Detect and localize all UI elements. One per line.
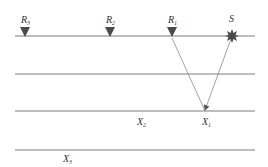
reflection-point-x3: X3 <box>62 153 72 165</box>
reflection-point-x1: X1 <box>201 116 211 128</box>
svg-text:R3: R3 <box>20 14 30 26</box>
svg-text:R1: R1 <box>167 14 177 26</box>
receiver-subscript: 3 <box>26 20 30 26</box>
reflection-point-x2: X2 <box>136 116 146 128</box>
receiver-label: R <box>20 14 27 25</box>
source-label: S <box>229 13 234 24</box>
receiver-r3: R3 <box>20 14 30 37</box>
receiver-r2: R2 <box>105 14 115 37</box>
ray-source-to-x1 <box>205 36 232 110</box>
receiver-label: R <box>105 14 112 25</box>
seismic-diagram: R3 R2 R1 S X1 X2 X3 <box>0 0 268 167</box>
receiver-r1: R1 <box>167 14 177 37</box>
svg-text:R2: R2 <box>105 14 115 26</box>
receiver-label: R <box>167 14 174 25</box>
source-starburst-icon <box>225 29 239 43</box>
receiver-subscript: 2 <box>112 20 115 26</box>
receiver-subscript: 1 <box>174 20 177 26</box>
source-s: S <box>225 13 239 43</box>
